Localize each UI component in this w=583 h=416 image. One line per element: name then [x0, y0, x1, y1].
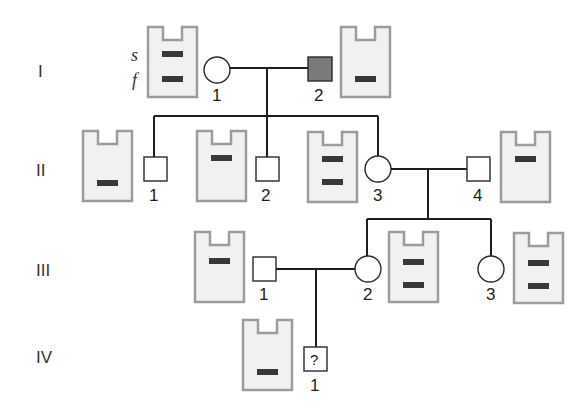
id-II-4: 4 [473, 186, 482, 205]
individual-III-2-female [355, 256, 381, 282]
pedigree-diagram: I II III IV s f 1 2 [0, 0, 583, 416]
band-slow [209, 258, 230, 264]
id-II-1: 1 [149, 186, 158, 205]
gel-II-1 [83, 131, 132, 201]
band-fast [322, 179, 343, 185]
band-slow [322, 156, 343, 162]
id-IV-1: 1 [310, 376, 319, 395]
individual-III-3-female [478, 256, 504, 282]
gel-III-3 [514, 233, 563, 303]
individual-I-1-female [204, 57, 230, 83]
band-slow [515, 156, 536, 162]
generation-label-IV: IV [36, 348, 53, 367]
id-III-2: 2 [363, 285, 372, 304]
id-I-1: 1 [212, 86, 221, 105]
generation-label-II: II [36, 161, 45, 180]
band-fast [355, 76, 376, 82]
gel-II-4 [501, 132, 550, 202]
gel-IV-1 [243, 320, 292, 390]
band-fast [403, 282, 424, 288]
band-slow [528, 260, 549, 266]
id-I-2: 2 [314, 86, 323, 105]
band-fast [257, 369, 278, 375]
generation-label-III: III [36, 261, 50, 280]
individual-II-1-male [144, 157, 167, 181]
individual-III-1-male [253, 257, 276, 281]
individual-I-2-male-affected [308, 57, 332, 81]
band-fast [162, 76, 183, 82]
band-label-slow: s [131, 45, 138, 65]
band-fast [528, 283, 549, 289]
band-slow [162, 51, 183, 57]
pedigree-lines [154, 68, 491, 347]
unknown-status-mark: ? [310, 351, 318, 368]
individual-II-2-male [256, 157, 279, 181]
gel-II-3 [308, 132, 357, 202]
id-III-1: 1 [259, 285, 268, 304]
id-II-3: 3 [373, 186, 382, 205]
id-III-3: 3 [486, 285, 495, 304]
band-label-fast: f [132, 70, 140, 90]
band-slow [211, 155, 232, 161]
generation-label-I: I [38, 62, 43, 81]
gel-I-2 [341, 27, 390, 97]
gel-III-1 [195, 232, 244, 302]
gel-I-1 [148, 27, 197, 97]
individual-II-3-female [365, 156, 391, 182]
id-II-2: 2 [261, 186, 270, 205]
band-fast [97, 180, 118, 186]
individual-II-4-male [467, 157, 490, 181]
gel-III-2 [389, 232, 438, 302]
band-slow [403, 259, 424, 265]
gel-II-2 [197, 131, 246, 201]
